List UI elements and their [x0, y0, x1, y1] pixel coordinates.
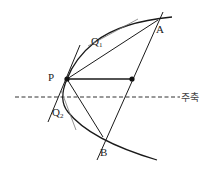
label-q2-letter: Q: [52, 106, 60, 118]
parabola-diagram: P A B Q1 Q2 주축: [0, 0, 213, 176]
label-p: P: [48, 71, 54, 83]
point-midpoint: [129, 76, 134, 81]
label-q2-sub: 2: [60, 112, 64, 120]
label-q2: Q2: [52, 106, 64, 120]
chord-pa: [67, 20, 158, 79]
tangent-line-q2: [61, 90, 76, 130]
label-b: B: [100, 146, 107, 158]
label-q1-letter: Q: [91, 35, 99, 47]
label-principal-axis: 주축: [181, 92, 199, 103]
point-p: [64, 76, 69, 81]
label-a: A: [156, 23, 164, 35]
label-q1-sub: 1: [99, 41, 103, 49]
parabola-curve: [63, 17, 172, 160]
